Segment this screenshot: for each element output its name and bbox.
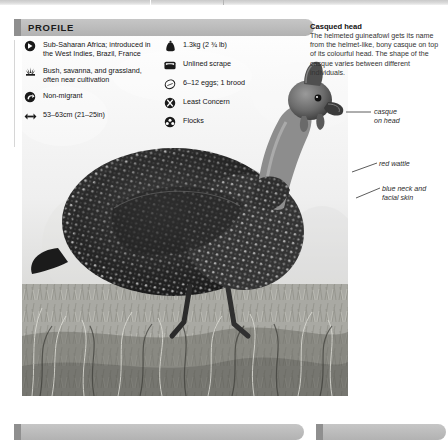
profile-nest-text: Unlined scrape xyxy=(183,59,231,68)
caption-title: Casqued head xyxy=(310,22,446,31)
profile-left-column: Sub-Saharan Africa; introduced in the We… xyxy=(23,40,151,129)
social-flock-icon xyxy=(163,116,177,128)
profile-header-bar: PROFILE xyxy=(14,19,314,36)
next-section-header-bar xyxy=(14,424,304,440)
page-title: PROFILE xyxy=(28,22,74,33)
profile-row-size: 53–63cm (21–25in) xyxy=(23,110,151,122)
weight-icon xyxy=(163,40,177,52)
blue-skin-annotation: blue neck and facial skin xyxy=(382,185,444,202)
profile-row-weight: 1.3kg (2 ¾ lb) xyxy=(163,40,313,52)
page-seam-right xyxy=(223,0,224,5)
profile-size-text: 53–63cm (21–25in) xyxy=(43,110,105,119)
size-arrows-icon xyxy=(23,110,37,122)
casque-annotation: casque on head xyxy=(374,108,444,125)
profile-social-text: Flocks xyxy=(183,116,204,125)
profile-eggs-text: 6–12 eggs; 1 brood xyxy=(183,78,245,87)
profile-habitat-text: Bush, savanna, and grassland, often near… xyxy=(43,66,151,85)
profile-header-accent xyxy=(14,19,21,36)
casqued-head-caption: Casqued head The helmeted guineafowl get… xyxy=(310,22,446,78)
casque-annotation-line2: on head xyxy=(374,117,444,126)
next-section-header-accent-right xyxy=(316,424,323,440)
egg-icon xyxy=(163,78,177,90)
profile-row-nest: Unlined scrape xyxy=(163,59,313,71)
profile-panel: PROFILE Sub-Saharan Africa; introduced i… xyxy=(14,19,314,147)
next-section-header-bar-right xyxy=(316,424,446,440)
profile-row-social: Flocks xyxy=(163,116,313,128)
page-top-edge-strip xyxy=(0,0,448,5)
nest-icon xyxy=(163,59,177,71)
casque-annotation-line1: casque xyxy=(374,108,444,117)
profile-row-migration: Non-migrant xyxy=(23,91,151,103)
caption-body: The helmeted guineafowl gets its name fr… xyxy=(310,32,446,78)
conservation-status-icon xyxy=(163,97,177,109)
profile-migration-text: Non-migrant xyxy=(43,91,83,100)
next-section-header-accent xyxy=(14,424,21,440)
profile-body: Sub-Saharan Africa; introduced in the We… xyxy=(14,40,314,147)
profile-status-text: Least Concern xyxy=(183,97,230,106)
profile-row-eggs: 6–12 eggs; 1 brood xyxy=(163,78,313,90)
profile-row-habitat: Bush, savanna, and grassland, often near… xyxy=(23,66,151,85)
blue-skin-annotation-line1: blue neck and xyxy=(382,185,444,194)
wattle-annotation-line1: red wattle xyxy=(379,160,443,169)
distribution-globe-icon xyxy=(23,40,37,52)
migration-arrow-icon xyxy=(23,91,37,103)
blue-skin-annotation-line2: facial skin xyxy=(382,194,444,203)
profile-right-column: 1.3kg (2 ¾ lb) Unlined scrape xyxy=(163,40,313,135)
profile-row-status: Least Concern xyxy=(163,97,313,109)
profile-row-distribution: Sub-Saharan Africa; introduced in the We… xyxy=(23,40,151,59)
profile-weight-text: 1.3kg (2 ¾ lb) xyxy=(183,40,227,49)
page-root: PROFILE Sub-Saharan Africa; introduced i… xyxy=(0,0,448,441)
page-seam-left xyxy=(150,0,151,5)
profile-distribution-text: Sub-Saharan Africa; introduced in the We… xyxy=(43,40,151,59)
habitat-grass-icon xyxy=(23,66,37,78)
wattle-annotation: red wattle xyxy=(379,160,443,169)
